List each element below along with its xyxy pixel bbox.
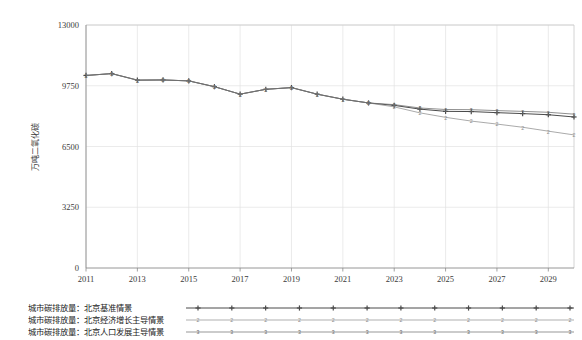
y-axis-title-text: 万吨二氧化碳 <box>30 123 40 171</box>
legend-label: 城市碳排放量：北京人口发展主导情景 <box>28 327 164 337</box>
y-tick-label: 9750 <box>62 81 79 91</box>
svg-text:3: 3 <box>535 329 538 335</box>
svg-text:3: 3 <box>367 100 370 106</box>
carbon-emission-line-chart: 032506500975013000 201120132015201720192… <box>0 0 582 340</box>
svg-text:3: 3 <box>136 78 139 84</box>
x-tick-label: 2019 <box>283 274 300 284</box>
svg-text:3: 3 <box>444 107 447 113</box>
svg-text:3: 3 <box>341 97 344 103</box>
svg-text:3: 3 <box>569 329 572 335</box>
svg-text:3: 3 <box>501 329 504 335</box>
svg-text:2: 2 <box>366 317 369 323</box>
x-tick-label: 2023 <box>386 274 403 284</box>
svg-text:3: 3 <box>418 105 421 111</box>
x-tick-label: 2025 <box>437 274 454 284</box>
svg-text:3: 3 <box>332 329 335 335</box>
svg-text:2: 2 <box>467 317 470 323</box>
svg-text:2: 2 <box>547 129 550 135</box>
svg-text:3: 3 <box>213 84 216 90</box>
svg-text:2: 2 <box>197 317 200 323</box>
svg-text:3: 3 <box>467 329 470 335</box>
svg-text:3: 3 <box>85 73 88 79</box>
y-tick-label: 3250 <box>62 202 79 212</box>
svg-text:3: 3 <box>290 85 293 91</box>
svg-text:2: 2 <box>535 317 538 323</box>
svg-text:3: 3 <box>433 329 436 335</box>
chart-background <box>0 0 582 340</box>
svg-text:2: 2 <box>298 317 301 323</box>
x-tick-label: 2029 <box>540 274 557 284</box>
chart-canvas: 032506500975013000 201120132015201720192… <box>0 0 582 340</box>
svg-text:2: 2 <box>399 317 402 323</box>
svg-text:2: 2 <box>569 317 572 323</box>
svg-text:3: 3 <box>366 329 369 335</box>
svg-text:3: 3 <box>264 87 267 93</box>
y-tick-label: 0 <box>75 263 79 273</box>
svg-text:3: 3 <box>496 108 499 114</box>
y-axis-title: 万吨二氧化碳 <box>30 123 40 171</box>
svg-text:3: 3 <box>521 109 524 115</box>
svg-text:3: 3 <box>399 329 402 335</box>
svg-text:3: 3 <box>547 110 550 116</box>
svg-text:2: 2 <box>433 317 436 323</box>
svg-text:2: 2 <box>521 125 524 131</box>
svg-text:3: 3 <box>110 71 113 77</box>
svg-text:3: 3 <box>264 329 267 335</box>
svg-text:2: 2 <box>501 317 504 323</box>
svg-text:3: 3 <box>470 107 473 113</box>
svg-text:2: 2 <box>264 317 267 323</box>
svg-text:3: 3 <box>239 92 242 98</box>
legend-label: 城市碳排放量：北京基准情景 <box>28 303 132 313</box>
x-tick-label: 2011 <box>78 274 95 284</box>
svg-text:3: 3 <box>393 102 396 108</box>
svg-text:3: 3 <box>298 329 301 335</box>
svg-text:3: 3 <box>197 329 200 335</box>
svg-text:2: 2 <box>573 132 576 138</box>
y-tick-label: 13000 <box>58 20 79 30</box>
svg-text:2: 2 <box>496 121 499 127</box>
svg-text:3: 3 <box>187 78 190 84</box>
chart-legend[interactable]: 城市碳排放量：北京基准情景城市碳排放量：北京经济增长主导情景2222222222… <box>28 303 574 337</box>
svg-text:3: 3 <box>230 329 233 335</box>
x-tick-label: 2021 <box>334 274 351 284</box>
x-tick-label: 2017 <box>232 274 249 284</box>
x-tick-label: 2015 <box>180 274 197 284</box>
x-tick-label: 2013 <box>129 274 146 284</box>
svg-text:3: 3 <box>316 92 319 98</box>
svg-text:3: 3 <box>573 112 576 118</box>
svg-text:2: 2 <box>470 118 473 124</box>
svg-text:2: 2 <box>444 115 447 121</box>
x-tick-label: 2027 <box>488 274 505 284</box>
svg-text:3: 3 <box>162 77 165 83</box>
svg-text:2: 2 <box>332 317 335 323</box>
svg-text:2: 2 <box>230 317 233 323</box>
y-tick-label: 6500 <box>62 142 79 152</box>
legend-label: 城市碳排放量：北京经济增长主导情景 <box>28 315 164 325</box>
